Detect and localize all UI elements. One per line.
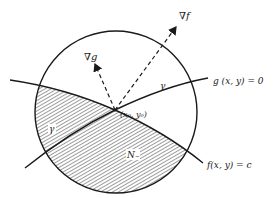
critical-point xyxy=(113,108,116,111)
lagrange-diagram: ∇f ∇g γ γ (x₀, y₀) N₋ g (x, y) = 0 f(x, … xyxy=(0,0,274,198)
curve-f-label: f(x, y) = c xyxy=(206,160,252,170)
grad-f-label: ∇f xyxy=(179,10,192,21)
grad-f-arrow xyxy=(115,27,176,110)
region-label: N₋ xyxy=(126,150,140,160)
grad-g-label: ∇g xyxy=(84,51,97,62)
curve-g-label: g (x, y) = 0 xyxy=(213,76,264,86)
gamma-label-lower: γ xyxy=(49,124,55,134)
point-label: (x₀, y₀) xyxy=(120,110,147,119)
gamma-label-upper: γ xyxy=(160,81,166,91)
